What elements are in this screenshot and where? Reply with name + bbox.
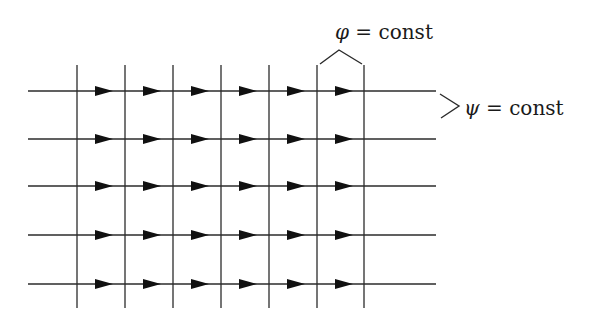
psi-const-label: ψ = const <box>464 98 564 118</box>
arrow-right-icon <box>143 279 161 289</box>
phi-const-text: = const <box>349 20 433 44</box>
arrow-right-icon <box>143 134 161 144</box>
arrow-right-icon <box>287 134 305 144</box>
flow-arrows <box>95 86 353 289</box>
phi-const-label: φ = const <box>335 22 433 42</box>
arrow-right-icon <box>95 134 113 144</box>
arrow-right-icon <box>95 86 113 96</box>
psi-symbol: ψ <box>464 96 480 120</box>
arrow-right-icon <box>143 86 161 96</box>
arrow-right-icon <box>191 134 209 144</box>
arrow-right-icon <box>335 230 353 240</box>
streamlines <box>28 91 436 284</box>
arrow-right-icon <box>335 86 353 96</box>
arrow-right-icon <box>287 230 305 240</box>
arrow-right-icon <box>191 86 209 96</box>
arrow-right-icon <box>239 134 257 144</box>
arrow-right-icon <box>287 181 305 191</box>
arrow-right-icon <box>239 181 257 191</box>
arrow-right-icon <box>95 279 113 289</box>
arrow-right-icon <box>95 230 113 240</box>
arrow-right-icon <box>239 230 257 240</box>
psi-brace <box>440 94 459 118</box>
phi-brace <box>320 50 362 64</box>
arrow-right-icon <box>239 279 257 289</box>
arrow-right-icon <box>335 134 353 144</box>
arrow-right-icon <box>191 230 209 240</box>
arrow-right-icon <box>191 181 209 191</box>
arrow-right-icon <box>335 279 353 289</box>
arrow-right-icon <box>287 86 305 96</box>
arrow-right-icon <box>143 230 161 240</box>
arrow-right-icon <box>335 181 353 191</box>
phi-symbol: φ <box>335 20 349 44</box>
arrow-right-icon <box>191 279 209 289</box>
arrow-right-icon <box>143 181 161 191</box>
psi-const-text: = const <box>480 96 564 120</box>
arrow-right-icon <box>287 279 305 289</box>
arrow-right-icon <box>95 181 113 191</box>
flow-net-diagram <box>0 0 601 323</box>
arrow-right-icon <box>239 86 257 96</box>
